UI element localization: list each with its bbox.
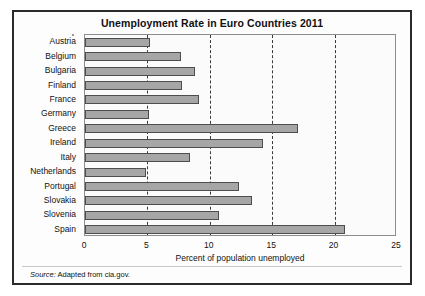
- y-tick-label-bulgaria: Bulgaria: [45, 65, 76, 75]
- bar-slovenia: [85, 211, 219, 220]
- bar-netherlands: [85, 168, 146, 177]
- bar-row: [85, 196, 395, 206]
- x-tick-label-5: 5: [144, 240, 149, 250]
- x-axis-label: Percent of population unemployed: [84, 253, 396, 263]
- bar-ireland: [85, 139, 263, 148]
- y-tick-label-slovenia: Slovenia: [43, 209, 76, 219]
- source-divider: [22, 266, 402, 267]
- bar-row: [85, 109, 395, 119]
- y-tick-label-finland: Finland: [48, 80, 76, 90]
- chart-title: Unemployment Rate in Euro Countries 2011: [14, 17, 410, 29]
- source-text: Adapted from cia.gov.: [56, 270, 130, 279]
- bar-finland: [85, 81, 182, 90]
- bar-row: [85, 138, 395, 148]
- bar-row: [85, 225, 395, 235]
- x-axis-ticks: 0510152025: [84, 240, 396, 254]
- bar-germany: [85, 110, 149, 119]
- plot-area: [84, 34, 396, 236]
- x-tick-label-20: 20: [329, 240, 338, 250]
- bar-greece: [85, 124, 298, 133]
- bar-row: [85, 52, 395, 62]
- chart-figure: Unemployment Rate in Euro Countries 2011…: [12, 10, 412, 285]
- bar-row: [85, 81, 395, 91]
- source-key: Source:: [30, 270, 56, 279]
- bar-row: [85, 124, 395, 134]
- y-axis-labels: AustriaBelgiumBulgariaFinlandFranceGerma…: [14, 34, 80, 236]
- y-tick-label-slovakia: Slovakia: [44, 195, 76, 205]
- bar-portugal: [85, 182, 239, 191]
- y-tick-label-greece: Greece: [48, 123, 76, 133]
- bar-spain: [85, 225, 345, 234]
- y-tick-label-germany: Germany: [41, 108, 76, 118]
- bar-row: [85, 210, 395, 220]
- bar-series: [85, 35, 395, 235]
- y-tick-label-spain: Spain: [54, 224, 76, 234]
- y-tick-label-france: France: [50, 94, 76, 104]
- y-tick-label-austria: Austria: [50, 36, 76, 46]
- x-tick-label-15: 15: [266, 240, 275, 250]
- bar-austria: [85, 38, 150, 47]
- bar-france: [85, 95, 199, 104]
- y-tick-label-portugal: Portugal: [44, 181, 76, 191]
- bar-italy: [85, 153, 190, 162]
- x-tick-label-0: 0: [82, 240, 87, 250]
- bar-belgium: [85, 52, 181, 61]
- x-tick-label-25: 25: [391, 240, 400, 250]
- bar-row: [85, 167, 395, 177]
- y-tick-label-belgium: Belgium: [45, 51, 76, 61]
- bar-row: [85, 66, 395, 76]
- bar-row: [85, 182, 395, 192]
- y-tick-label-ireland: Ireland: [50, 137, 76, 147]
- bar-slovakia: [85, 196, 252, 205]
- source-note: Source: Adapted from cia.gov.: [30, 270, 130, 279]
- bar-bulgaria: [85, 67, 195, 76]
- y-tick-label-netherlands: Netherlands: [30, 166, 76, 176]
- bar-row: [85, 37, 395, 47]
- bar-row: [85, 95, 395, 105]
- y-tick-label-italy: Italy: [60, 152, 76, 162]
- bar-row: [85, 153, 395, 163]
- x-tick-label-10: 10: [204, 240, 213, 250]
